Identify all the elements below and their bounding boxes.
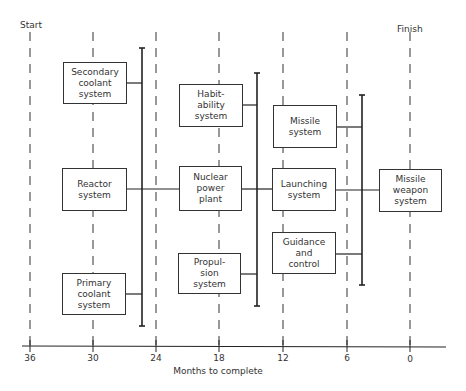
box-reactor-system: Reactor system xyxy=(62,168,127,211)
finish-label: Finish xyxy=(397,24,423,34)
box-secondary-coolant-system: Secondary coolant system xyxy=(63,62,127,104)
tick-label-36: 36 xyxy=(24,353,35,363)
tick-label-18: 18 xyxy=(213,353,224,363)
tick-label-0: 0 xyxy=(407,354,413,364)
axis-title: Months to complete xyxy=(173,366,263,376)
box-missile-weapon-system: Missile weapon system xyxy=(379,169,442,212)
tick-label-30: 30 xyxy=(87,353,98,363)
tick-label-6: 6 xyxy=(344,353,350,363)
box-propulsion-system: Propul- sion system xyxy=(178,253,241,294)
box-nuclear-power-plant: Nuclear power plant xyxy=(179,166,242,211)
x-axis xyxy=(22,340,446,352)
connectors xyxy=(126,83,379,294)
start-label: Start xyxy=(20,20,42,30)
tick-label-24: 24 xyxy=(150,353,161,363)
box-guidance-and-control: Guidance and control xyxy=(272,232,336,274)
box-missile-system: Missile system xyxy=(273,105,337,148)
box-habitability-system: Habit- ability system xyxy=(179,84,243,127)
box-primary-coolant-system: Primary coolant system xyxy=(62,273,126,315)
tick-label-12: 12 xyxy=(277,353,288,363)
box-launching-system: Launching system xyxy=(272,168,336,211)
